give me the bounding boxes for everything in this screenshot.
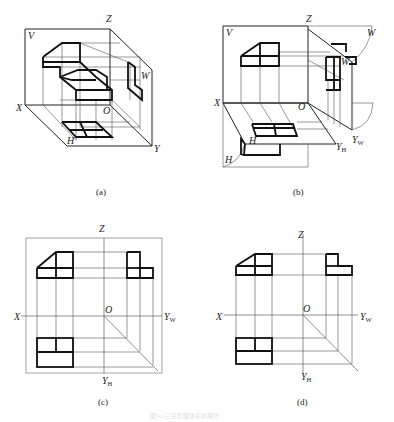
label-yh: YH: [102, 375, 113, 387]
label-v: V: [226, 27, 234, 38]
label-yw: YW: [360, 311, 373, 323]
caption-b: (b): [293, 187, 304, 197]
label-yh: YH: [301, 371, 312, 383]
panel-a: Z V W X O H Y (a): [15, 13, 161, 197]
label-x: X: [13, 311, 21, 322]
y-axis: [110, 105, 152, 146]
label-x: X: [15, 102, 23, 113]
diagonal-45: [303, 315, 358, 371]
label-x: X: [213, 97, 221, 108]
side-view: [326, 254, 352, 275]
diagonal-45: [104, 316, 158, 371]
projector-lines: [241, 52, 344, 135]
label-w-outer: W: [367, 27, 377, 38]
label-h: H: [66, 135, 75, 146]
projector-lines: [37, 252, 153, 367]
panel-b: Z V W W X O H H YH YW (b): [213, 13, 377, 197]
label-x: X: [215, 311, 223, 322]
caption-c: (c): [98, 397, 108, 407]
panel-c: Z X O YW YH (c): [13, 223, 177, 407]
yw-arc: [352, 103, 373, 130]
label-y: Y: [154, 143, 161, 154]
label-v: V: [28, 30, 36, 41]
front-view: [236, 254, 272, 275]
label-o: O: [105, 304, 112, 315]
label-w: W: [141, 70, 151, 81]
label-h-inner: H: [248, 135, 257, 146]
three-views: [37, 252, 153, 367]
label-z: Z: [99, 223, 105, 234]
label-yh: YH: [336, 141, 347, 153]
label-yw: YW: [352, 134, 365, 146]
label-yw: YW: [164, 311, 177, 323]
front-view: [37, 252, 73, 278]
caption-a: (a): [96, 187, 106, 197]
object-views: [241, 43, 356, 155]
label-o: O: [298, 101, 305, 112]
label-o: O: [103, 105, 110, 116]
label-z: Z: [106, 13, 112, 24]
panel-d: Z X O YW YH (d): [215, 229, 373, 407]
label-z: Z: [298, 229, 304, 240]
projector-lines: [43, 43, 140, 140]
projection-figure: Z V W X O H Y (a): [0, 0, 394, 422]
label-o: O: [303, 303, 310, 314]
label-z: Z: [306, 13, 312, 24]
v-plane: [223, 26, 308, 103]
figure-caption: 图3-1 三投影面体系的展开: [150, 412, 220, 420]
label-h-outer: H: [224, 154, 233, 165]
caption-d: (d): [297, 397, 308, 407]
